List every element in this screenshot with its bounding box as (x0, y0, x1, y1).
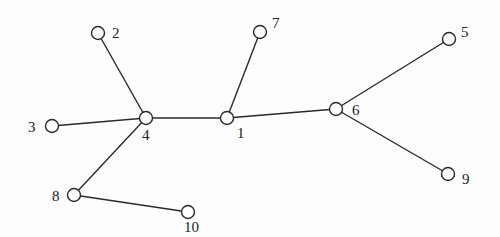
node-label-4: 4 (142, 127, 150, 143)
node-5 (443, 33, 456, 46)
node-label-8: 8 (52, 188, 60, 204)
node-8 (68, 189, 81, 202)
node-6 (330, 103, 343, 116)
node-10 (182, 206, 195, 219)
node-label-3: 3 (28, 119, 36, 135)
edge-4-8 (74, 118, 146, 195)
graph-canvas: 12345678910 (0, 0, 500, 237)
node-label-10: 10 (184, 219, 199, 235)
node-label-1: 1 (237, 125, 245, 141)
node-3 (46, 120, 59, 133)
edge-6-5 (336, 39, 449, 109)
node-2 (92, 27, 105, 40)
edge-8-10 (74, 195, 188, 212)
node-9 (442, 168, 455, 181)
node-label-5: 5 (461, 24, 469, 40)
edge-6-9 (336, 109, 448, 174)
node-label-9: 9 (462, 171, 470, 187)
edge-1-6 (227, 109, 336, 118)
node-4 (140, 112, 153, 125)
edge-4-3 (52, 118, 146, 126)
node-label-6: 6 (352, 102, 360, 118)
node-label-2: 2 (112, 25, 120, 41)
edge-1-7 (227, 32, 260, 118)
node-1 (221, 112, 234, 125)
node-label-7: 7 (272, 15, 280, 31)
node-7 (254, 26, 267, 39)
edge-4-2 (98, 33, 146, 118)
tree-diagram: 12345678910 (0, 0, 500, 237)
